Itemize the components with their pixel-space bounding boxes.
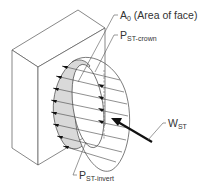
area-of-face-label: A0 (Area of face): [120, 10, 197, 22]
load-arrow: [111, 118, 152, 142]
tunnel-face-diagram: A0 (Area of face) PST-crown WST PST-inve…: [0, 0, 205, 194]
crown-pressure-label: PST-crown: [120, 30, 157, 42]
crown-symbol: P: [120, 29, 127, 41]
load-label: WST: [168, 118, 187, 130]
diagram-drawing: [0, 0, 205, 194]
invert-symbol: P: [79, 169, 86, 181]
load-symbol: W: [168, 117, 178, 129]
area-symbol: A: [120, 9, 127, 21]
area-description: (Area of face): [131, 9, 198, 21]
invert-pressure-label: PST-invert: [79, 170, 114, 182]
load-subscript: ST: [178, 123, 187, 130]
crown-subscript: ST-crown: [127, 35, 157, 42]
invert-subscript: ST-invert: [86, 175, 114, 182]
pressure-body: [53, 57, 129, 171]
